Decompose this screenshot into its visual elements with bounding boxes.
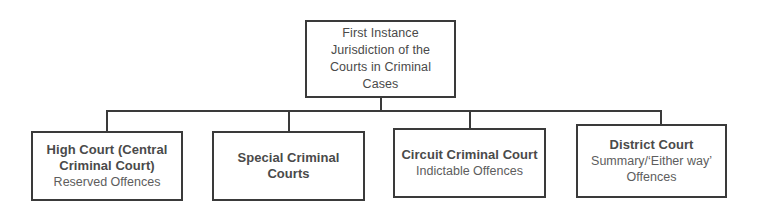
connector-drop-district-court — [660, 110, 662, 125]
node-special-criminal-courts: Special Criminal Courts — [212, 131, 365, 201]
connector-drop-high-court — [106, 110, 108, 132]
node-circuit-criminal-court-subtitle: Indictable Offences — [411, 163, 528, 179]
connector-horizontal-bus — [107, 110, 662, 112]
node-high-court-title: High Court (Central Criminal Court) — [33, 142, 181, 174]
node-district-court: District Court Summary/‘Either way’ Offe… — [576, 124, 727, 198]
node-special-criminal-courts-title: Special Criminal Courts — [214, 150, 363, 182]
node-district-court-subtitle: Summary/‘Either way’ Offences — [578, 153, 725, 185]
root-node-title: First Instance Jurisdiction of the Court… — [307, 25, 454, 93]
node-circuit-criminal-court: Circuit Criminal Court Indictable Offenc… — [393, 128, 546, 198]
root-node-first-instance-jurisdiction: First Instance Jurisdiction of the Court… — [305, 20, 456, 98]
node-circuit-criminal-court-title: Circuit Criminal Court — [396, 147, 542, 163]
connector-drop-special-criminal-courts — [288, 110, 290, 132]
node-district-court-title: District Court — [605, 137, 699, 153]
node-high-court-subtitle: Reserved Offences — [49, 174, 166, 190]
connector-drop-circuit-criminal-court — [469, 110, 471, 129]
court-jurisdiction-diagram: First Instance Jurisdiction of the Court… — [0, 0, 759, 216]
node-high-court: High Court (Central Criminal Court) Rese… — [31, 131, 183, 201]
